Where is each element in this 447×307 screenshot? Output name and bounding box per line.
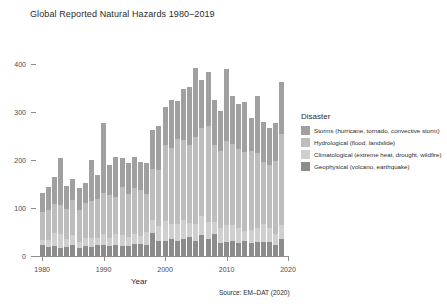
bar-segment — [89, 238, 94, 248]
bar-segment — [156, 170, 161, 227]
bar-segment — [273, 245, 278, 256]
bar-column — [236, 104, 241, 256]
bar-column — [175, 101, 180, 256]
bar-segment — [175, 224, 180, 241]
bar-segment — [101, 234, 106, 245]
x-tick-mark — [104, 256, 105, 261]
bar-segment — [279, 82, 284, 134]
bar-segment — [46, 187, 51, 210]
bar-segment — [138, 162, 143, 190]
bar-segment — [212, 222, 217, 234]
bar-segment — [144, 232, 149, 245]
bar-segment — [132, 234, 137, 244]
bar-segment — [40, 245, 45, 256]
bar-segment — [52, 246, 57, 256]
bar-segment — [156, 241, 161, 256]
bar-segment — [58, 158, 63, 205]
bar-segment — [181, 140, 186, 220]
bar-segment — [249, 151, 254, 230]
bar-segment — [83, 246, 88, 256]
x-tick-mark — [42, 256, 43, 261]
bar-segment — [249, 243, 254, 256]
bar-segment — [181, 220, 186, 239]
bar-column — [206, 72, 211, 256]
bar-segment — [120, 158, 125, 188]
bar-segment — [187, 237, 192, 256]
bar-segment — [273, 234, 278, 246]
bar-segment — [132, 244, 137, 256]
bar-segment — [206, 126, 211, 222]
bar-segment — [126, 163, 131, 194]
bar-column — [126, 163, 131, 256]
bar-segment — [224, 141, 229, 225]
bar-segment — [83, 238, 88, 247]
bar-segment — [101, 193, 106, 234]
bar-column — [279, 82, 284, 256]
x-tick-label: 2010 — [212, 266, 242, 273]
bar-column — [95, 175, 100, 257]
bar-segment — [236, 228, 241, 242]
bar-segment — [273, 161, 278, 234]
bar-segment — [113, 197, 118, 234]
bar-segment — [46, 247, 51, 256]
bar-column — [70, 179, 75, 256]
bar-segment — [218, 151, 223, 228]
bar-segment — [187, 223, 192, 236]
bar-segment — [206, 222, 211, 239]
bar-segment — [58, 234, 63, 248]
bar-column — [150, 130, 155, 256]
bar-segment — [101, 123, 106, 193]
bar-segment — [279, 134, 284, 225]
bar-segment — [150, 220, 155, 232]
bar-segment — [255, 153, 260, 228]
legend-title: Disaster — [301, 112, 447, 121]
bar-segment — [273, 123, 278, 161]
bar-column — [255, 96, 260, 256]
bar-segment — [175, 101, 180, 138]
x-tick-label: 1980 — [27, 266, 57, 273]
bar-segment — [120, 246, 125, 256]
x-axis-title: Year — [131, 277, 147, 286]
y-tick-label: 100 — [4, 205, 26, 212]
legend-item: Climatological (extreme heat, drought, w… — [301, 149, 447, 160]
bar-column — [46, 187, 51, 256]
bar-segment — [267, 242, 272, 256]
bar-segment — [224, 225, 229, 241]
bar-segment — [242, 152, 247, 231]
bar-segment — [187, 145, 192, 224]
bar-segment — [230, 241, 235, 256]
legend-swatch-icon — [301, 126, 310, 135]
bar-segment — [77, 210, 82, 242]
bar-column — [169, 100, 174, 256]
bar-segment — [163, 241, 168, 256]
bar-segment — [249, 230, 254, 242]
x-tick-label: 2020 — [273, 266, 303, 273]
bar-column — [242, 102, 247, 256]
bar-segment — [150, 169, 155, 220]
bar-segment — [193, 241, 198, 256]
bar-segment — [261, 122, 266, 162]
bar-column — [261, 122, 266, 256]
bar-segment — [169, 148, 174, 225]
y-tick-label: 300 — [4, 109, 26, 116]
legend-item-label: Geophysical (volcano, earthquake) — [314, 163, 410, 170]
bar-segment — [138, 236, 143, 244]
bar-column — [132, 157, 137, 256]
bar-segment — [242, 241, 247, 256]
bar-series-layer — [36, 45, 288, 256]
bar-segment — [156, 226, 161, 240]
legend-item: Hydrological (flood, landslide) — [301, 137, 447, 148]
bar-column — [156, 126, 161, 256]
bar-column — [273, 123, 278, 256]
bar-segment — [193, 224, 198, 240]
bar-segment — [218, 228, 223, 243]
bar-column — [187, 87, 192, 256]
bar-segment — [46, 210, 51, 240]
bar-segment — [138, 190, 143, 236]
bar-segment — [193, 137, 198, 224]
bar-column — [230, 96, 235, 256]
bar-segment — [77, 248, 82, 256]
bar-segment — [267, 228, 272, 241]
bar-segment — [255, 228, 260, 242]
bar-segment — [113, 157, 118, 196]
